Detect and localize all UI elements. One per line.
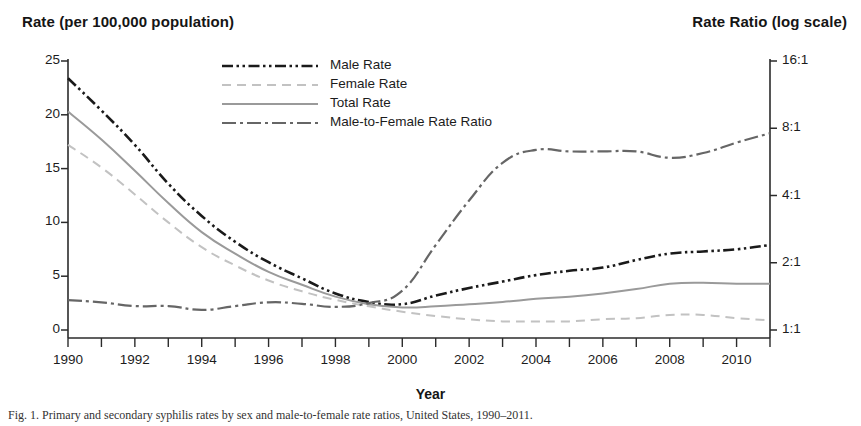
x-axis-tick-label: 2006: [575, 352, 631, 367]
x-axis-tick-label: 1992: [107, 352, 163, 367]
x-axis-tick-label: 2010: [709, 352, 765, 367]
x-axis-tick-label: 1990: [40, 352, 96, 367]
y-axis-right-tick-label: 16:1: [782, 52, 808, 67]
legend-label-female: Female Rate: [330, 76, 407, 91]
figure-container: Rate (per 100,000 population) Rate Ratio…: [0, 0, 861, 426]
y-axis-left-tick-label: 0: [26, 321, 60, 336]
legend-line-samples: [222, 66, 318, 123]
x-axis-tick-label: 1994: [174, 352, 230, 367]
y-axis-right-tick-label: 4:1: [782, 187, 801, 202]
x-axis-tick-label: 1996: [241, 352, 297, 367]
x-axis-tick-label: 2008: [642, 352, 698, 367]
y-axis-left-tick-label: 25: [26, 52, 60, 67]
legend-label-total: Total Rate: [330, 95, 391, 110]
axis-lines: [68, 59, 770, 338]
series-line-total: [68, 112, 770, 308]
series-line-male: [68, 78, 770, 305]
y-axis-left-tick-label: 15: [26, 160, 60, 175]
y-axis-left-tick-label: 20: [26, 106, 60, 121]
y-axis-right-tick-label: 2:1: [782, 254, 801, 269]
legend-label-male: Male Rate: [330, 57, 392, 72]
x-axis-tick-label: 2002: [441, 352, 497, 367]
y-axis-left-tick-label: 10: [26, 213, 60, 228]
x-axis-tick-label: 1998: [307, 352, 363, 367]
series-line-female: [68, 145, 770, 322]
y-axis-left-tick-label: 5: [26, 267, 60, 282]
y-axis-right-tick-label: 1:1: [782, 321, 801, 336]
legend-label-ratio: Male-to-Female Rate Ratio: [330, 114, 492, 129]
x-axis-tick-label: 2004: [508, 352, 564, 367]
x-axis-tick-label: 2000: [374, 352, 430, 367]
figure-caption: Fig. 1. Primary and secondary syphilis r…: [8, 408, 853, 426]
y-axis-right-tick-label: 8:1: [782, 119, 801, 134]
